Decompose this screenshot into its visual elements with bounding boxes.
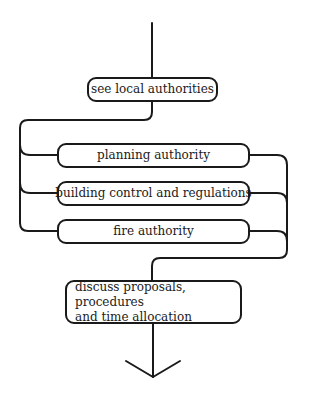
node-building-control: building control and regulations — [57, 181, 250, 206]
node-discuss-line2: and time allocation — [75, 310, 192, 324]
node-see-local-authorities: see local authorities — [87, 77, 218, 102]
node-fire-authority: fire authority — [57, 219, 250, 244]
merge-fire — [250, 231, 287, 241]
node-discuss-line1: discuss proposals, procedures — [75, 280, 186, 309]
merge-building — [250, 193, 287, 203]
node-planning-authority: planning authority — [57, 143, 250, 168]
right-bus-line — [152, 155, 287, 280]
branch-planning — [20, 145, 57, 155]
node-discuss-proposals-text: discuss proposals, procedures and time a… — [75, 280, 240, 325]
node-discuss-proposals: discuss proposals, procedures and time a… — [65, 280, 242, 324]
branch-building — [20, 183, 57, 193]
